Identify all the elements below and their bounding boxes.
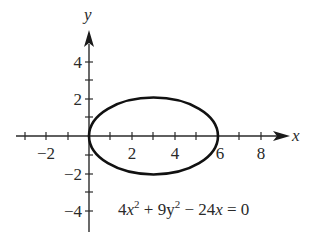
x-axis-label: x [291, 126, 300, 145]
x-tick-label: 2 [128, 144, 137, 163]
equation-annotation: 4x2 + 9y2 − 24x = 0 [118, 200, 249, 220]
x-tick-label: −2 [37, 144, 55, 163]
x-tick-label: 6 [216, 144, 225, 163]
x-tick-label: 8 [257, 144, 266, 163]
y-tick-label: −4 [64, 202, 83, 221]
y-axis-label: y [82, 5, 92, 24]
x-tick-label: 4 [171, 144, 180, 163]
y-tick-label: 2 [74, 90, 83, 109]
y-tick-label: −2 [64, 165, 82, 184]
y-tick-label: 4 [74, 53, 83, 72]
